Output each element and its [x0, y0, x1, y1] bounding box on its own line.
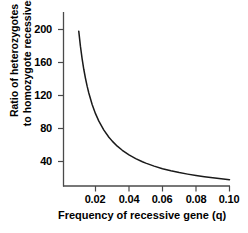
- x-tick-label: 0.02: [78, 194, 112, 205]
- y-axis-title: Ratio of heterozygotes to homozygote rec…: [8, 0, 33, 131]
- axis-spines: [63, 12, 230, 187]
- x-axis-title: Frequency of recessive gene (q): [42, 209, 242, 221]
- x-tick-label: 0.04: [112, 194, 146, 205]
- data-series-curve: [79, 31, 230, 180]
- x-axis-ticks: [96, 186, 230, 192]
- y-axis-title-line1: Ratio of heterozygotes: [8, 0, 21, 131]
- x-tick-label: 0.06: [145, 194, 179, 205]
- x-tick-label: 0.10: [212, 194, 246, 205]
- y-axis-ticks: [58, 30, 64, 162]
- y-axis-title-line2: to homozygote recessives: [20, 0, 33, 131]
- x-tick-label: 0.08: [179, 194, 213, 205]
- chart-figure: 200 160 120 80 40 0.02 0.04 0.06 0.08 0.…: [0, 0, 248, 233]
- y-tick-label: 40: [26, 156, 52, 167]
